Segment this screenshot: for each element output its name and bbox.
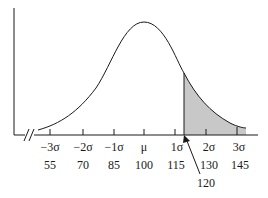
value-label: 115 [167,158,185,172]
cutoff-annotation: 120 [197,176,215,190]
axis-break-icon [24,129,34,141]
sigma-label: 3σ [233,140,246,154]
sigma-label: −1σ [104,140,124,154]
sigma-label: 2σ [203,140,216,154]
sigma-label: 1σ [171,140,184,154]
normal-distribution-chart: −3σ −2σ −1σ μ 1σ 2σ 3σ 55 70 85 100 115 … [0,0,268,198]
arrow-icon [183,135,200,174]
value-label: 85 [108,158,120,172]
value-label: 145 [231,158,249,172]
sigma-label: −2σ [73,140,93,154]
sigma-label: −3σ [40,140,60,154]
value-label: 100 [135,158,153,172]
value-label: 130 [200,158,218,172]
value-label: 55 [44,158,56,172]
mean-label: μ [141,140,147,154]
value-label: 70 [77,158,89,172]
